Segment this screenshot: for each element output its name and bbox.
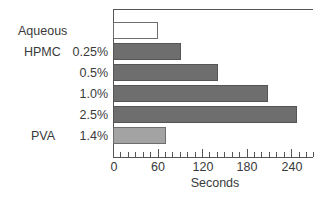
minor-tick [261, 152, 262, 157]
major-tick [113, 149, 114, 157]
x-axis-line [113, 157, 313, 158]
group-label-pva: PVA [31, 129, 55, 143]
bar-pva-1.4% [113, 127, 166, 144]
x-tick-label-240: 240 [272, 160, 312, 174]
conc-label-pva-14: 1.4% [58, 129, 108, 143]
conc-label-hpmc-05: 0.5% [58, 66, 108, 80]
minor-tick [135, 152, 136, 157]
minor-tick [150, 152, 151, 157]
minor-tick [276, 152, 277, 157]
minor-tick [254, 152, 255, 157]
minor-tick [165, 152, 166, 157]
axis-top-line [113, 9, 313, 10]
bar-hpmc-1.0% [113, 85, 268, 102]
x-tick-label-120: 120 [183, 160, 223, 174]
x-tick-label-60: 60 [138, 160, 178, 174]
group-label-aqueous: Aqueous [18, 24, 67, 38]
x-axis-title: Seconds [170, 176, 260, 190]
major-tick [202, 149, 203, 157]
bar-hpmc-2.5% [113, 106, 297, 123]
minor-tick [209, 152, 210, 157]
minor-tick [224, 152, 225, 157]
minor-tick [284, 152, 285, 157]
conc-label-hpmc-25: 2.5% [58, 108, 108, 122]
minor-tick [239, 152, 240, 157]
x-tick-label-180: 180 [227, 160, 267, 174]
minor-tick [269, 152, 270, 157]
minor-tick [187, 152, 188, 157]
bar-chart: Aqueous HPMC PVA 0.25% 0.5% 1.0% 2.5% 1.… [0, 0, 332, 199]
minor-tick [120, 152, 121, 157]
bar-aqueous-none [113, 22, 158, 39]
minor-tick [195, 152, 196, 157]
minor-tick [180, 152, 181, 157]
minor-tick [232, 152, 233, 157]
minor-tick [143, 152, 144, 157]
major-tick [291, 149, 292, 157]
minor-tick [299, 152, 300, 157]
minor-tick [313, 152, 314, 157]
major-tick [158, 149, 159, 157]
conc-label-hpmc-025: 0.25% [58, 45, 108, 59]
minor-tick [217, 152, 218, 157]
minor-tick [128, 152, 129, 157]
minor-tick [172, 152, 173, 157]
x-tick-label-0: 0 [94, 160, 134, 174]
bar-hpmc-0.25% [113, 43, 181, 60]
group-label-hpmc: HPMC [24, 45, 61, 59]
bar-hpmc-0.5% [113, 64, 218, 81]
minor-tick [306, 152, 307, 157]
conc-label-hpmc-10: 1.0% [58, 87, 108, 101]
major-tick [247, 149, 248, 157]
